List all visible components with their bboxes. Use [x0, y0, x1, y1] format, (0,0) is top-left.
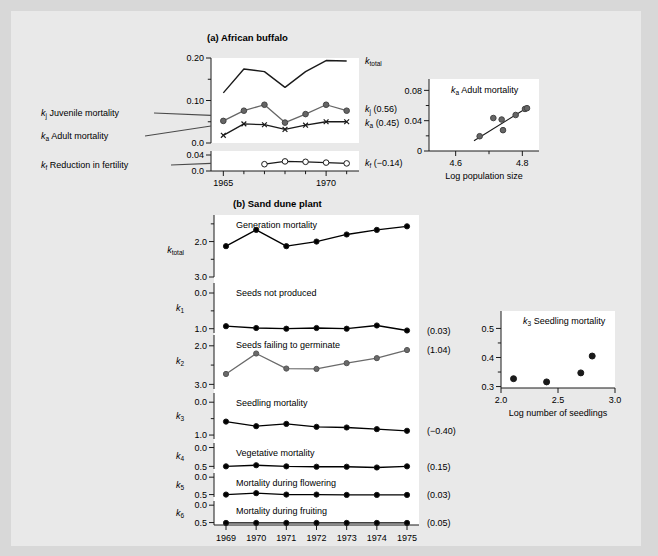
- series-label-kj: kj (0.56): [365, 104, 397, 116]
- row-y-tick-label: 0.5: [194, 490, 207, 500]
- row-caption-6: Mortality during fruiting: [236, 506, 327, 516]
- row-point-5: [254, 491, 259, 496]
- row-y-tick-label: 1.0: [194, 430, 207, 440]
- panel-b-x-tick-label: 1974: [367, 533, 387, 543]
- panel-b: (b) Sand dune plant3.02.0ktotalGeneratio…: [167, 198, 621, 543]
- inset-a-y-tick-label: 0: [417, 146, 422, 156]
- leader-line-kj: [154, 113, 211, 115]
- row-y-tick-label: 2.0: [194, 237, 207, 247]
- row-point-5: [374, 492, 379, 497]
- row-annotation-1: (0.03): [427, 326, 451, 336]
- panel-a-kf-tick-label: 0.04: [186, 150, 204, 160]
- row-point-total: [344, 232, 349, 237]
- inset-a-x-tick-label: 4.8: [516, 158, 529, 168]
- point-k_j (0.56): [344, 108, 350, 114]
- series-label-ktotal: ktotal: [365, 56, 382, 67]
- series-label-ka: ka (0.45): [365, 118, 399, 129]
- leader-label-kf: kf Reduction in fertility: [41, 160, 129, 171]
- row-point-5: [284, 492, 289, 497]
- row-k-label-5: k5: [176, 480, 185, 491]
- point-kf: [262, 161, 268, 167]
- row-point-2: [404, 347, 409, 352]
- row-point-1: [404, 328, 409, 333]
- inset-a-point: [491, 115, 497, 121]
- point-k_j (0.56): [303, 111, 309, 117]
- row-caption-4: Vegetative mortality: [236, 448, 315, 458]
- point-kf: [303, 159, 309, 165]
- row-k-label-4: k4: [176, 451, 185, 462]
- row-point-total: [314, 239, 319, 244]
- row-point-2: [374, 356, 379, 361]
- row-y-tick-label: 0.0: [194, 443, 207, 453]
- inset-b-y-tick-label: 0.3: [481, 382, 494, 392]
- row-caption-3: Seedling mortality: [236, 398, 308, 408]
- row-point-4: [404, 464, 409, 469]
- panel-a-y-tick-label: 0.20: [186, 53, 204, 63]
- row-point-1: [284, 326, 289, 331]
- row-y-tick-label: 3.0: [194, 272, 207, 282]
- inset-b-point: [578, 370, 584, 376]
- row-annotation-2: (1.04): [427, 345, 451, 355]
- row-point-2: [344, 361, 349, 366]
- panel-a-title: (a) African buffalo: [207, 32, 288, 43]
- inset-a-y-tick-label: 0.08: [404, 86, 422, 96]
- inset-b-xlabel: Log number of seedlings: [509, 408, 608, 418]
- row-point-3: [314, 424, 319, 429]
- row-point-4: [314, 464, 319, 469]
- panel-a-y-tick-label: 0.0: [191, 138, 204, 148]
- point-k_j (0.56): [282, 120, 288, 126]
- inset-b-title: k3 Seedling mortality: [523, 316, 606, 327]
- inset-a-point: [524, 105, 530, 111]
- row-point-4: [284, 464, 289, 469]
- leader-label-ka: ka Adult mortality: [41, 131, 109, 142]
- row-point-3: [374, 427, 379, 432]
- inset-a-x-tick-label: 4.6: [449, 158, 462, 168]
- panel-b-title: (b) Sand dune plant: [233, 198, 322, 209]
- inset-a-point: [500, 127, 506, 133]
- row-point-4: [254, 463, 259, 468]
- row-y-tick-label: 0.0: [194, 472, 207, 482]
- row-annotation-4: (0.15): [427, 462, 451, 472]
- panel-b-x-tick-label: 1969: [216, 533, 236, 543]
- row-point-3: [254, 424, 259, 429]
- row-k-label-6: k6: [176, 508, 185, 519]
- figure-svg: (a) African buffalo0.200.100.00.040.0196…: [11, 11, 641, 546]
- row-point-4: [374, 465, 379, 470]
- row-point-3: [284, 421, 289, 426]
- row-point-1: [374, 323, 379, 328]
- leader-label-kj: kj Juvenile mortality: [41, 108, 119, 120]
- panel-b-x-tick-label: 1973: [337, 533, 357, 543]
- point-k_j (0.56): [241, 108, 247, 114]
- inset-b-x-tick-label: 2.5: [552, 395, 565, 405]
- point-k_j (0.56): [221, 118, 227, 124]
- row-y-tick-label: 0.5: [194, 518, 207, 528]
- row-point-total: [374, 227, 379, 232]
- row-y-tick-label: 3.0: [194, 380, 207, 390]
- inset-b-y-tick-label: 0.4: [481, 353, 494, 363]
- row-point-1: [223, 324, 228, 329]
- point-kf: [323, 160, 329, 166]
- panel-a-x-tick-label: 1970: [316, 178, 336, 188]
- row-y-tick-label: 0.0: [194, 397, 207, 407]
- row-k-label-1: k1: [176, 303, 185, 314]
- row-point-3: [344, 425, 349, 430]
- row-k-label-total: ktotal: [167, 245, 184, 256]
- row-caption-1: Seeds not produced: [236, 288, 317, 298]
- row-annotation-3: (−0.40): [427, 426, 456, 436]
- row-point-5: [404, 492, 409, 497]
- row-annotation-5: (0.03): [427, 490, 451, 500]
- panel-a: (a) African buffalo0.200.100.00.040.0196…: [41, 32, 539, 188]
- inset-a-point: [499, 117, 505, 123]
- row-caption-total: Generation mortality: [236, 220, 318, 230]
- row-point-5: [223, 492, 228, 497]
- row-caption-2: Seeds failing to germinate: [236, 340, 340, 350]
- inset-b-point: [544, 379, 550, 385]
- point-kf: [282, 159, 288, 165]
- inset-b-point: [511, 376, 517, 382]
- row-y-tick-label: 0.0: [194, 288, 207, 298]
- inset-a-title: ka Adult mortality: [451, 85, 519, 96]
- row-point-2: [223, 371, 228, 376]
- inset-a-xlabel: Log population size: [445, 171, 523, 181]
- row-point-2: [284, 366, 289, 371]
- inset-b-x-tick-label: 2.0: [495, 395, 508, 405]
